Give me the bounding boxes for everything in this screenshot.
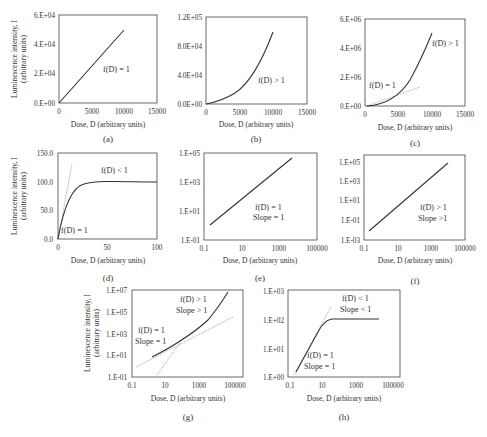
x-tick: 0.1 bbox=[360, 245, 369, 253]
y-tick: 4.E+06 bbox=[340, 45, 361, 53]
annotation: f(D) > 1 bbox=[432, 39, 459, 48]
plot-frame bbox=[204, 153, 317, 240]
x-tick: 1000 bbox=[192, 382, 207, 390]
x-tick: 15000 bbox=[298, 109, 316, 117]
figure-canvas: 6.E+04 4.E+04 2.E+04 0.E+00 0 5000 10000… bbox=[0, 0, 487, 437]
x-tick: 15000 bbox=[148, 108, 166, 116]
annotation: f(D) = 1 bbox=[307, 351, 334, 360]
x-tick: 0.1 bbox=[200, 245, 209, 253]
x-tick: 10 bbox=[318, 382, 326, 390]
x-axis-label: Dose, D (arbitrary units) bbox=[223, 256, 298, 265]
y-tick: 1.E+05 bbox=[339, 159, 360, 167]
y-tick: 50.0 bbox=[40, 207, 53, 215]
panel-label: (e) bbox=[255, 273, 265, 283]
plot-frame bbox=[364, 155, 465, 240]
chart-c: 6.E+06 4.E+06 2.E+06 0.E+00 0 5000 10000… bbox=[340, 16, 474, 148]
y-tick: 1.E-03 bbox=[341, 237, 361, 245]
x-tick: 0 bbox=[56, 244, 60, 252]
x-tick: 0 bbox=[57, 108, 61, 116]
y-tick: 100.0 bbox=[37, 179, 54, 187]
panel-label: (h) bbox=[339, 412, 350, 422]
y-tick: 1.E+01 bbox=[179, 208, 200, 216]
panel-label: (g) bbox=[183, 412, 194, 422]
x-tick: 100 bbox=[152, 244, 163, 252]
panel-label: (b) bbox=[251, 134, 262, 144]
y-tick: 0.E+00 bbox=[34, 100, 55, 108]
y-tick: 1.2E+05 bbox=[177, 14, 202, 22]
y-tick: 1.E+02 bbox=[263, 317, 284, 325]
chart-e: 1.E+05 1.E+03 1.E+01 1.E-01 0.1 10 1000 … bbox=[179, 150, 328, 283]
y-tick: 0.0 bbox=[44, 236, 53, 244]
y-tick: 1.E+01 bbox=[339, 197, 360, 205]
x-tick: 100000 bbox=[224, 382, 246, 390]
y-tick: 4.E+04 bbox=[34, 41, 55, 49]
y-tick: 1.E+00 bbox=[263, 374, 284, 382]
chart-h: 1.E+03 1.E+02 1.E+01 1.E+00 0.1 10 1000 … bbox=[263, 288, 404, 422]
y-tick: 1.E+03 bbox=[263, 288, 284, 296]
y-tick: 1.E+05 bbox=[179, 150, 200, 158]
y-tick: 1.E+05 bbox=[106, 309, 127, 317]
data-curve bbox=[367, 33, 432, 106]
panel-label: (f) bbox=[411, 276, 420, 286]
x-tick: 10 bbox=[161, 382, 169, 390]
y-axis-label: Luminescence intensity, I bbox=[83, 294, 92, 372]
y-tick: 1.E-01 bbox=[341, 217, 361, 225]
x-tick: 0.1 bbox=[128, 382, 137, 390]
y-tick: 150.0 bbox=[37, 150, 54, 158]
panel-label: (a) bbox=[103, 134, 113, 144]
y-tick: 8.0E+04 bbox=[177, 43, 202, 51]
y-tick: 2.E+06 bbox=[340, 74, 361, 82]
x-tick: 5000 bbox=[85, 108, 100, 116]
y-tick: 1.E+01 bbox=[106, 352, 127, 360]
annotation: f(D) > 1 bbox=[180, 295, 207, 304]
x-tick: 100000 bbox=[306, 245, 328, 253]
x-tick: 15000 bbox=[456, 111, 474, 119]
chart-f: 1.E+05 1.E+03 1.E+01 1.E-01 1.E-03 0.1 1… bbox=[339, 155, 476, 286]
x-tick: 10 bbox=[238, 245, 246, 253]
chart-a: 6.E+04 4.E+04 2.E+04 0.E+00 0 5000 10000… bbox=[10, 12, 166, 144]
panel-label: (c) bbox=[410, 138, 420, 148]
annotation: f(D) < 1 bbox=[342, 294, 369, 303]
y-axis-label: Luminescence intensity, I bbox=[10, 157, 19, 235]
x-axis-label: Dose, D (arbitrary units) bbox=[151, 394, 226, 403]
annotation: f(D) > 1 bbox=[258, 76, 285, 85]
x-tick: 10000 bbox=[423, 111, 441, 119]
chart-g: 1.E+07 1.E+05 1.E+03 1.E+01 1.E-01 0.1 1… bbox=[83, 287, 246, 422]
y-axis-label-units: (arbitrary units) bbox=[19, 35, 28, 83]
panel-label: (d) bbox=[103, 273, 114, 283]
annotation: Slope = 1 bbox=[304, 362, 335, 371]
y-tick: 1.E+03 bbox=[179, 179, 200, 187]
plot-frame bbox=[365, 19, 465, 106]
x-tick: 10000 bbox=[115, 108, 133, 116]
x-tick: 1000 bbox=[349, 382, 364, 390]
x-tick: 5000 bbox=[233, 109, 248, 117]
x-tick: 0.1 bbox=[286, 382, 295, 390]
x-tick: 100000 bbox=[382, 382, 404, 390]
plot-frame bbox=[206, 17, 307, 104]
y-tick: 1.E+01 bbox=[263, 346, 284, 354]
y-tick: 6.E+06 bbox=[340, 16, 361, 24]
x-tick: 1000 bbox=[272, 245, 287, 253]
x-axis-label: Dose, D (arbitrary units) bbox=[307, 394, 382, 403]
x-axis-label: Dose, D (arbitrary units) bbox=[219, 120, 294, 129]
annotation: f(D) > 1 bbox=[420, 203, 447, 212]
y-axis-label: Luminescence intensity, I bbox=[10, 20, 19, 98]
plot-frame bbox=[59, 15, 157, 103]
x-tick: 50 bbox=[103, 244, 111, 252]
x-tick: 10 bbox=[394, 245, 402, 253]
x-axis-label: Dose, D (arbitrary units) bbox=[378, 123, 453, 132]
y-tick: 1.E+07 bbox=[106, 287, 127, 295]
annotation: Slope = 1 bbox=[135, 337, 166, 346]
x-tick: 0 bbox=[363, 111, 367, 119]
x-tick: 100000 bbox=[454, 245, 476, 253]
chart-d: 150.0 100.0 50.0 0.0 0 50 100 Dose, D (a… bbox=[10, 150, 163, 283]
annotation: Slope = 1 bbox=[253, 213, 284, 222]
annotation: Slope >1 bbox=[418, 214, 447, 223]
y-tick: 1.E+03 bbox=[339, 178, 360, 186]
annotation: f(D) = 1 bbox=[103, 65, 130, 74]
x-axis-label: Dose, D (arbitrary units) bbox=[378, 256, 453, 265]
y-axis-label-units: (arbitrary units) bbox=[92, 309, 101, 357]
x-axis-label: Dose, D (arbitrary units) bbox=[71, 120, 146, 129]
x-tick: 10000 bbox=[264, 109, 282, 117]
y-tick: 1.E-01 bbox=[108, 374, 128, 382]
